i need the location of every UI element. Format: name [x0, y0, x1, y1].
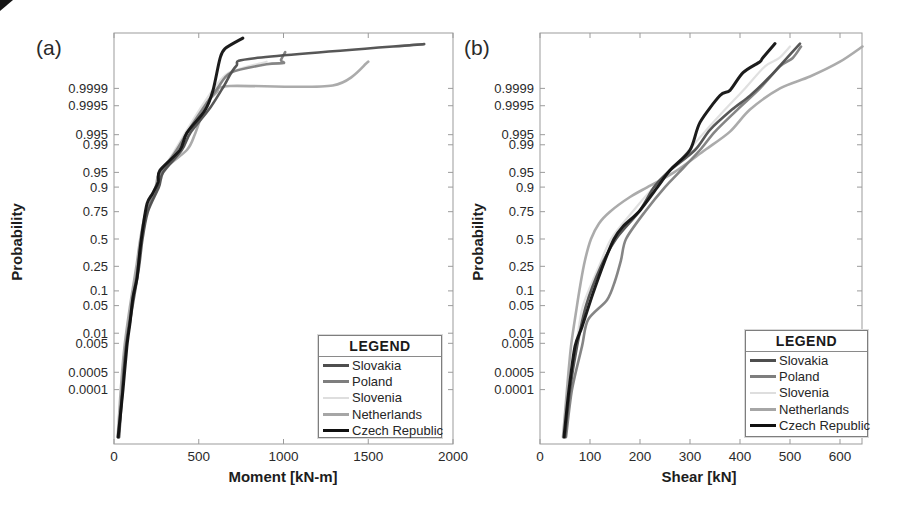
- x-axis-label-b: Shear [kN]: [661, 468, 736, 485]
- y-axis-label-b: Probability: [469, 203, 486, 281]
- legend-line-swatch: [323, 364, 349, 367]
- y-tick-label: 0.1: [90, 283, 108, 298]
- y-tick-label: 0.005: [501, 336, 534, 351]
- legend-line-swatch: [750, 392, 776, 394]
- x-tick-labels-a: 0500100015002000: [110, 449, 468, 464]
- x-tick-label: 0: [536, 449, 544, 464]
- y-tick-label: 0.95: [509, 165, 534, 180]
- y-tick-label: 0.25: [509, 259, 534, 274]
- legend-row: Netherlands: [746, 401, 867, 417]
- x-tick-label: 1500: [353, 449, 383, 464]
- legend-line-swatch: [323, 413, 349, 416]
- y-tick-label: 0.9999: [68, 81, 108, 96]
- legend-entry-label: Poland: [779, 369, 819, 384]
- legend-line-swatch: [750, 408, 776, 411]
- legend-rows: Slovakia Poland Slovenia Netherlands Cze…: [746, 352, 867, 434]
- y-tick-labels-a: 0.99990.99950.9950.990.950.90.750.50.250…: [68, 81, 108, 397]
- y-tick-label: 0.95: [83, 165, 108, 180]
- x-tick-labels-b: 0100200300400500600: [536, 449, 851, 464]
- y-tick-label: 0.0001: [494, 382, 534, 397]
- legend-row: Netherlands: [319, 406, 441, 422]
- x-tick-label: 100: [579, 449, 602, 464]
- x-tick-label: 500: [187, 449, 210, 464]
- y-tick-label: 0.9995: [494, 98, 534, 113]
- legend-entry-label: Netherlands: [779, 402, 849, 417]
- legend-row: Czech Republic: [319, 423, 441, 439]
- y-tick-label: 0.0001: [68, 382, 108, 397]
- legend-line-swatch: [750, 424, 776, 427]
- legend-row: Slovakia: [319, 357, 441, 373]
- y-tick-label: 0.05: [83, 298, 108, 313]
- legend-row: Czech Republic: [746, 418, 867, 434]
- legend-entry-label: Netherlands: [352, 407, 422, 422]
- y-tick-label: 0.0005: [68, 365, 108, 380]
- y-tick-labels-b: 0.99990.99950.9950.990.950.90.750.50.250…: [494, 81, 534, 397]
- series-poland-line-a: [119, 52, 286, 437]
- y-axis-label-a: Probability: [8, 203, 25, 281]
- x-tick-label: 600: [829, 449, 852, 464]
- y-tick-label: 0.05: [509, 298, 534, 313]
- legend-title: LEGEND: [746, 331, 867, 352]
- legend-entry-label: Slovenia: [779, 385, 829, 400]
- x-axis-label-a: Moment [kN-m]: [228, 468, 337, 485]
- legend-line-swatch: [323, 397, 349, 399]
- legend-line-swatch: [323, 380, 349, 383]
- legend-row: Slovakia: [746, 352, 867, 368]
- legend-rows: Slovakia Poland Slovenia Netherlands Cze…: [319, 357, 441, 439]
- x-tick-label: 400: [729, 449, 752, 464]
- x-tick-label: 0: [110, 449, 118, 464]
- legend-row: Poland: [746, 368, 867, 384]
- y-tick-label: 0.0005: [494, 365, 534, 380]
- y-tick-label: 0.5: [90, 232, 108, 247]
- legend-line-swatch: [750, 359, 776, 362]
- legend-row: Slovenia: [746, 385, 867, 401]
- y-tick-label: 0.9999: [494, 81, 534, 96]
- panel-a-label: (a): [36, 36, 62, 60]
- panel-b-label: (b): [464, 36, 490, 60]
- y-tick-label: 0.005: [75, 336, 108, 351]
- legend-line-swatch: [750, 375, 776, 378]
- legend-entry-label: Czech Republic: [779, 418, 870, 433]
- legend-title: LEGEND: [319, 336, 441, 357]
- y-tick-label: 0.9: [90, 180, 108, 195]
- x-tick-label: 1000: [268, 449, 298, 464]
- figure: 05001000150020000.99990.99950.9950.990.9…: [0, 0, 903, 509]
- y-tick-label: 0.25: [83, 259, 108, 274]
- legend-row: Slovenia: [319, 390, 441, 406]
- y-tick-label: 0.75: [509, 204, 534, 219]
- x-tick-label: 300: [679, 449, 702, 464]
- legend-entry-label: Slovakia: [352, 358, 401, 373]
- y-tick-label: 0.5: [516, 232, 534, 247]
- legend-b: LEGEND Slovakia Poland Slovenia Netherla…: [745, 330, 868, 437]
- x-tick-label: 200: [629, 449, 652, 464]
- legend-line-swatch: [323, 429, 349, 432]
- y-tick-label: 0.75: [83, 204, 108, 219]
- y-tick-label: 0.9: [516, 180, 534, 195]
- x-tick-label: 2000: [438, 449, 468, 464]
- series-czech-republic-line-a: [118, 38, 243, 437]
- y-tick-label: 0.99: [83, 137, 108, 152]
- legend-entry-label: Slovenia: [352, 390, 402, 405]
- y-tick-label: 0.9995: [68, 98, 108, 113]
- legend-a: LEGEND Slovakia Poland Slovenia Netherla…: [318, 335, 442, 438]
- legend-entry-label: Czech Republic: [352, 423, 443, 438]
- legend-entry-label: Poland: [352, 374, 392, 389]
- x-tick-label: 500: [779, 449, 802, 464]
- legend-entry-label: Slovakia: [779, 353, 828, 368]
- y-tick-label: 0.99: [509, 137, 534, 152]
- y-tick-label: 0.1: [516, 283, 534, 298]
- legend-row: Poland: [319, 373, 441, 389]
